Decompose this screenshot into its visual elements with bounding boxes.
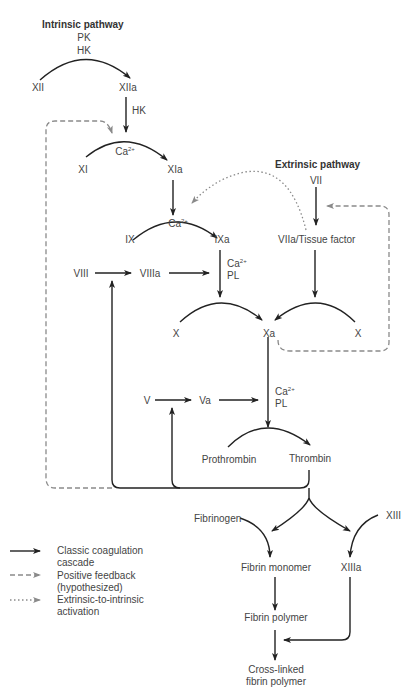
extrinsic-pathway-title: Extrinsic pathway xyxy=(275,159,360,170)
node-viii: VIII xyxy=(73,268,88,279)
cofactor-ca-xa: Ca2+ xyxy=(275,386,295,397)
node-fibrin-polymer: Fibrin polymer xyxy=(244,612,307,623)
node-x-right: X xyxy=(355,328,362,339)
arrow-prothrombin-thrombin xyxy=(228,428,310,447)
arrow-thrombin-v xyxy=(172,408,180,488)
node-x-left: X xyxy=(173,328,180,339)
node-hk-mid: HK xyxy=(132,105,146,116)
legend-item-solid: Classic coagulation cascade xyxy=(57,545,143,569)
node-va: Va xyxy=(199,395,211,406)
node-ix: IX xyxy=(125,234,134,245)
node-ixa: IXa xyxy=(214,234,229,245)
dotted-extrinsic-to-intrinsic xyxy=(192,171,306,230)
node-fibrinogen: Fibrinogen xyxy=(194,513,241,524)
legend-item-dotted: Extrinsic-to-intrinsic activation xyxy=(57,594,144,618)
feedback-thrombin-xi xyxy=(46,121,112,488)
legend-item-dashed: Positive feedback (hypothesized) xyxy=(57,570,135,594)
arrow-xiiia-crosslink xyxy=(284,577,350,640)
node-xia: XIa xyxy=(167,164,182,175)
node-hk-top: HK xyxy=(77,45,91,56)
node-xii: XII xyxy=(32,82,44,93)
node-v: V xyxy=(144,395,151,406)
intrinsic-pathway-title: Intrinsic pathway xyxy=(42,19,124,30)
node-viiia: VIIIa xyxy=(140,268,161,279)
arrow-xright-xa xyxy=(275,303,355,322)
node-cross-linked-line1: Cross-linked xyxy=(248,664,304,675)
arrow-fibrinogen-monomer xyxy=(240,518,270,557)
cofactor-ca-ixa: Ca2+ xyxy=(227,258,247,269)
node-xiiia: XIIIa xyxy=(341,562,362,573)
arrow-thrombin-fibrinmonomer xyxy=(272,488,309,531)
node-vii: VII xyxy=(310,175,322,186)
feedback-xa-vii xyxy=(278,206,389,351)
node-prothrombin: Prothrombin xyxy=(202,454,256,465)
arrow-xiii-xiiia xyxy=(350,515,378,557)
cofactor-pl-ixa: PL xyxy=(227,270,239,281)
node-thrombin: Thrombin xyxy=(289,453,331,464)
node-xi: XI xyxy=(78,164,87,175)
node-cross-linked-line2: fibrin polymer xyxy=(246,676,306,687)
node-viia-tissue-factor: VIIa/Tissue factor xyxy=(278,234,355,245)
arrow-thrombin-xiiia xyxy=(309,498,350,531)
node-xa: Xa xyxy=(263,328,275,339)
node-fibrin-monomer: Fibrin monomer xyxy=(241,562,311,573)
arrow-xii-xiia xyxy=(40,59,130,80)
arrow-xleft-xa xyxy=(180,303,262,322)
cofactor-pl-xa: PL xyxy=(275,398,287,409)
node-pk: PK xyxy=(77,32,90,43)
cofactor-ca-ix: Ca2+ xyxy=(168,218,188,229)
node-xiia: XIIa xyxy=(119,82,137,93)
cofactor-ca-xi: Ca2+ xyxy=(115,146,135,157)
node-xiii: XIII xyxy=(386,510,401,521)
